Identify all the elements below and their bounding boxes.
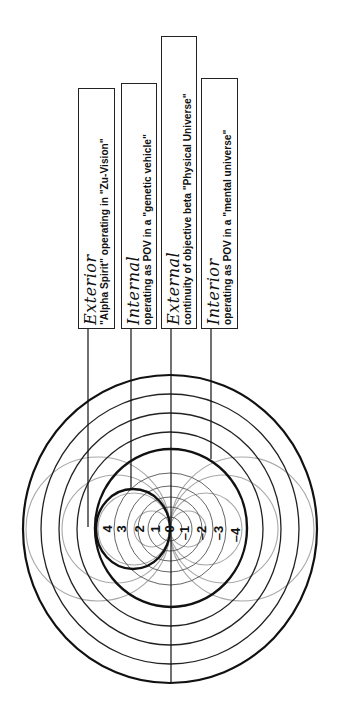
- label-box-exterior: Exterior "Alpha Spirit" operating in "Zu…: [78, 88, 115, 329]
- label-box-internal: Internal operating as POV in a "genetic …: [121, 83, 157, 329]
- scale-4: 4: [100, 525, 115, 533]
- label-desc-internal: operating as POV in a "genetic vehicle": [142, 134, 153, 325]
- scale-3: 3: [114, 525, 129, 532]
- scale-1: 1: [148, 525, 163, 532]
- label-box-external: External continuity of objective beta "P…: [161, 36, 197, 329]
- scale-m2: –2: [194, 526, 209, 540]
- label-desc-interior: operating as POV in a "mental universe": [222, 130, 233, 325]
- scale-2: 2: [132, 525, 147, 532]
- label-title-external: External: [165, 93, 182, 325]
- label-desc-exterior: "Alpha Spirit" operating in "Zu-Vision": [99, 138, 110, 325]
- scale-m3: –3: [211, 526, 226, 540]
- scale-m1: –1: [177, 526, 192, 540]
- scale-m4: –4: [228, 527, 243, 542]
- scale-0: 0: [162, 525, 177, 532]
- label-title-exterior: Exterior: [82, 138, 99, 325]
- label-box-interior: Interior operating as POV in a "mental u…: [201, 78, 238, 329]
- label-title-internal: Internal: [125, 134, 142, 325]
- label-title-interior: Interior: [205, 130, 222, 325]
- label-desc-external: continuity of objective beta "Physical U…: [182, 93, 193, 325]
